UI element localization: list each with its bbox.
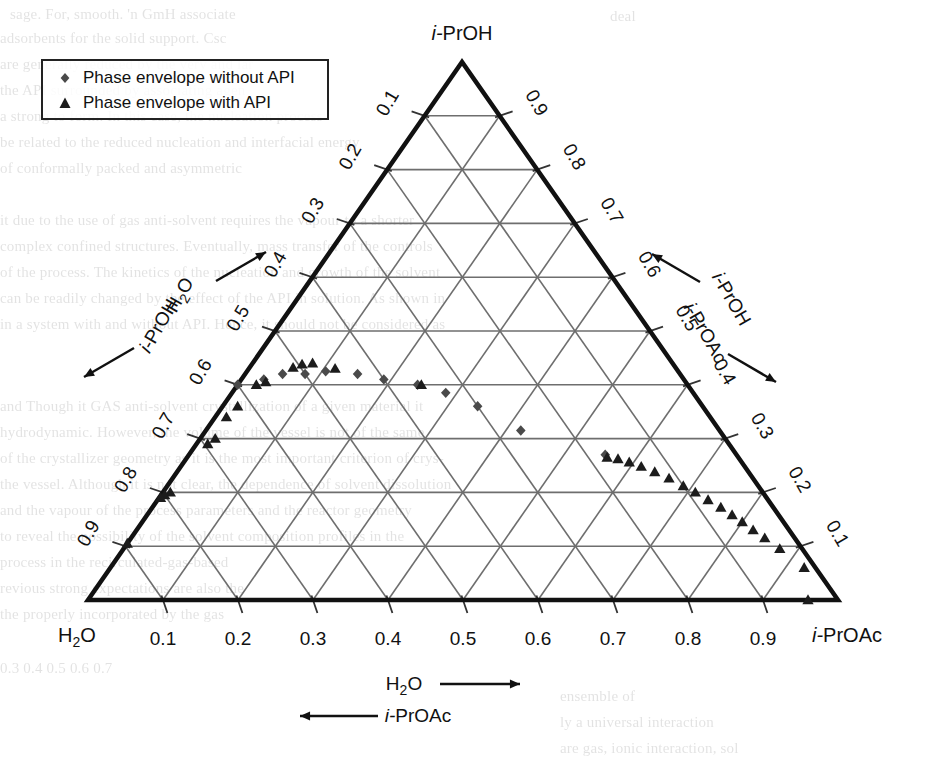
data-point — [678, 480, 689, 490]
data-point — [321, 366, 331, 376]
right-tick-0.3: 0.3 — [747, 409, 778, 442]
ternary-diagram-figure: 0.10.20.30.40.50.60.70.80.90.10.20.30.40… — [0, 0, 934, 776]
data-point — [636, 461, 647, 471]
data-point — [221, 411, 232, 421]
right-tick-0.7: 0.7 — [596, 194, 627, 227]
bottom-tick-0.9: 0.9 — [750, 628, 776, 649]
bottom-tick-0.3: 0.3 — [300, 628, 326, 649]
data-point — [702, 494, 713, 504]
left-tick-0.6: 0.6 — [185, 355, 216, 388]
data-point — [624, 457, 635, 467]
data-point — [516, 425, 526, 435]
bottom-axis-title-water: H2O — [386, 673, 422, 698]
left-axis-arrow-up — [216, 252, 266, 281]
grid-lines — [125, 116, 800, 600]
bottom-tick-0.8: 0.8 — [675, 628, 701, 649]
data-point — [441, 388, 451, 398]
vertex-label-top-iproh: i-PrOH — [431, 22, 492, 44]
bottom-axis-arrow-left — [300, 712, 378, 721]
data-point — [612, 453, 623, 463]
triangle-marker-icon — [57, 95, 73, 111]
left-tick-0.3: 0.3 — [297, 194, 328, 227]
diamond-marker-icon — [57, 70, 73, 86]
right-tick-0.6: 0.6 — [634, 248, 665, 281]
left-tick-0.5: 0.5 — [222, 301, 253, 334]
data-point — [715, 502, 726, 512]
bottom-tick-0.5: 0.5 — [450, 628, 476, 649]
legend-entry-with-api: Phase envelope with API — [57, 91, 271, 115]
left-tick-0.8: 0.8 — [110, 463, 141, 496]
data-point — [278, 369, 288, 379]
legend-entry-without-api: Phase envelope without API — [57, 66, 295, 90]
vertex-label-bottomright-iproac: i-PrOAc — [812, 624, 882, 646]
bottom-tick-0.7: 0.7 — [600, 628, 626, 649]
data-point — [759, 532, 770, 542]
right-tick-0.1: 0.1 — [822, 517, 853, 550]
left-tick-0.9: 0.9 — [72, 517, 103, 550]
data-point — [649, 466, 660, 476]
left-tick-0.7: 0.7 — [147, 409, 178, 442]
data-point — [353, 369, 363, 379]
left-axis-arrow-down — [84, 348, 134, 377]
left-tick-0.2: 0.2 — [334, 140, 365, 173]
data-point — [747, 524, 758, 534]
right-tick-0.8: 0.8 — [559, 140, 590, 173]
bottom-axis-title-iproac: i-PrOAc — [385, 705, 452, 726]
tick-marks — [112, 111, 813, 613]
bottom-tick-0.2: 0.2 — [225, 628, 251, 649]
data-point — [307, 358, 318, 368]
legend-label-without-api: Phase envelope without API — [83, 68, 295, 88]
data-point — [232, 401, 243, 411]
vertex-label-bottomleft-water: H2O — [58, 624, 96, 650]
bottom-tick-0.6: 0.6 — [525, 628, 551, 649]
bottom-tick-0.1: 0.1 — [150, 628, 176, 649]
data-point — [737, 516, 748, 526]
left-tick-0.1: 0.1 — [372, 86, 403, 119]
bottom-axis-arrow-right — [440, 680, 520, 689]
data-point — [329, 363, 340, 373]
data-point — [799, 562, 810, 572]
bottom-tick-0.4: 0.4 — [375, 628, 402, 649]
legend-label-with-api: Phase envelope with API — [83, 93, 271, 113]
legend: Phase envelope without API Phase envelop… — [41, 59, 329, 120]
right-axis-title-iproh: i-PrOH — [708, 268, 755, 329]
data-point — [774, 543, 785, 553]
right-tick-0.2: 0.2 — [784, 463, 815, 496]
data-point — [726, 509, 737, 519]
left-axis-title-iproh: i-PrOH — [135, 295, 182, 356]
right-tick-0.9: 0.9 — [521, 86, 552, 119]
data-point — [663, 473, 674, 483]
